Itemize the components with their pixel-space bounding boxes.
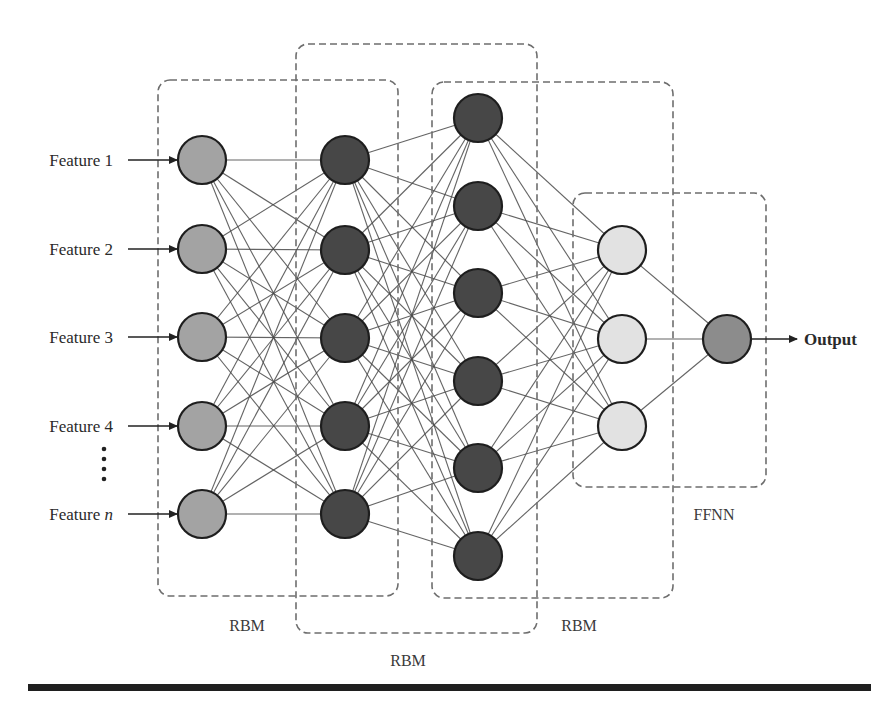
group-label-ffnn: FFNN [694,506,735,523]
connection-edge [478,426,622,556]
neuron-input [178,225,226,273]
neuron-hidden-3 [598,315,646,363]
neuron-hidden-1 [321,402,369,450]
neuron-input [178,402,226,450]
connection-edge [478,250,622,381]
neuron-hidden-1 [321,226,369,274]
neuron-input [178,490,226,538]
diagram-canvas: Feature 1Feature 2Feature 3Feature 4Feat… [0,0,894,702]
output-section: Output [751,330,857,349]
connection-edge [478,118,622,250]
group-labels: RBMRBMRBMFFNN [229,506,735,669]
neuron-hidden-1 [321,314,369,362]
feature-label: Feature 4 [49,417,113,436]
network-diagram: Feature 1Feature 2Feature 3Feature 4Feat… [0,0,894,702]
group-label-rbm: RBM [229,617,265,634]
ellipsis-dot [102,477,107,482]
neuron-hidden-2 [454,444,502,492]
feature-label: Feature n [49,505,113,524]
neuron-hidden-2 [454,182,502,230]
neuron-hidden-1 [321,136,369,184]
neuron-hidden-3 [598,402,646,450]
group-label-rbm: RBM [390,652,426,669]
neuron-hidden-2 [454,94,502,142]
neuron-hidden-2 [454,532,502,580]
neuron-hidden-1 [321,490,369,538]
neuron-input [178,313,226,361]
neuron-hidden-3 [598,226,646,274]
ellipsis-dot [102,457,107,462]
connection-edge [345,381,478,514]
feature-label: Feature 2 [49,240,113,259]
connection-edge [345,118,478,250]
ellipsis-dot [102,447,107,452]
feature-label: Feature 1 [49,151,113,170]
group-label-rbm: RBM [561,617,597,634]
bottom-rule [28,684,871,691]
neuron-input [178,136,226,184]
neuron-output [703,315,751,363]
connections [202,118,727,556]
output-label: Output [804,330,857,349]
ellipsis-dot [102,467,107,472]
neuron-hidden-2 [454,269,502,317]
connection-edge [478,206,622,339]
neuron-hidden-2 [454,357,502,405]
feature-label: Feature 3 [49,328,113,347]
